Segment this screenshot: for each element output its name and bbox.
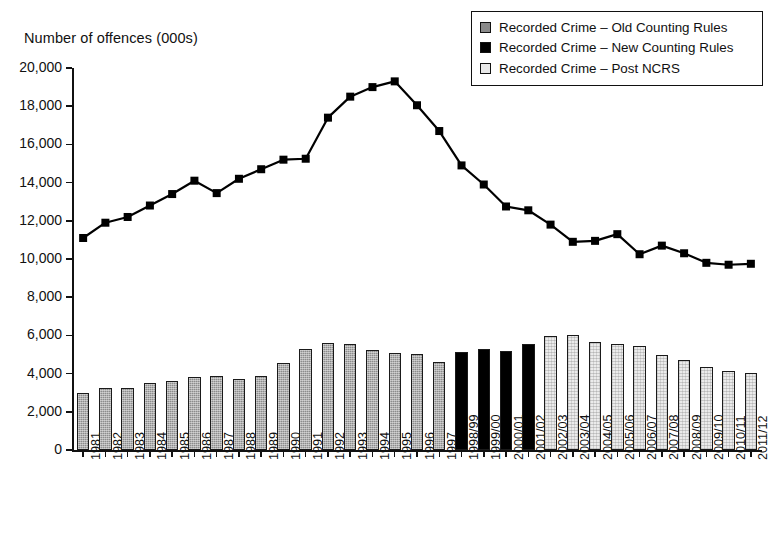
line-marker-2000-01 [502, 202, 510, 210]
x-axis-tick [127, 450, 129, 457]
old-counting-rules-swatch-icon [480, 22, 491, 33]
x-axis-tick [572, 450, 574, 457]
line-marker-1987 [213, 189, 221, 197]
x-axis-tick [750, 450, 752, 457]
line-marker-1990 [279, 156, 287, 164]
x-axis-tick [639, 450, 641, 457]
y-axis-tick-label: 8,000 [0, 288, 62, 304]
x-axis-tick [394, 450, 396, 457]
line-marker-1994 [368, 83, 376, 91]
x-axis-tick [528, 450, 530, 457]
y-axis-tick-label: 18,000 [0, 97, 62, 113]
line-marker-2010-11 [725, 261, 733, 269]
line-marker-2009-10 [702, 259, 710, 267]
x-axis-tick [617, 450, 619, 457]
line-marker-2007-08 [658, 242, 666, 250]
line-marker-2005-06 [613, 230, 621, 238]
x-axis-tick [327, 450, 329, 457]
line-marker-1996 [413, 101, 421, 109]
x-axis-tick [550, 450, 552, 457]
line-marker-2002-03 [547, 221, 555, 229]
x-axis-tick [483, 450, 485, 457]
line-marker-2004-05 [591, 237, 599, 245]
y-axis-tick-label: 20,000 [0, 59, 62, 75]
y-axis-title: Number of offences (000s) [24, 30, 198, 46]
x-axis-tick [661, 450, 663, 457]
line-marker-2008-09 [680, 249, 688, 257]
x-axis-tick [706, 450, 708, 457]
line-marker-1993 [346, 93, 354, 101]
x-axis-tick [105, 450, 107, 457]
x-axis-tick [728, 450, 730, 457]
legend-item-new-counting-rules: Recorded Crime – New Counting Rules [480, 38, 754, 59]
x-axis-tick [683, 450, 685, 457]
y-axis-tick-label: 6,000 [0, 326, 62, 342]
x-axis-tick [594, 450, 596, 457]
x-axis-tick [149, 450, 151, 457]
line-marker-2006-07 [636, 250, 644, 258]
line-marker-2003-04 [569, 238, 577, 246]
legend-item-old-counting-rules: Recorded Crime – Old Counting Rules [480, 17, 754, 38]
legend-label-new-counting-rules: Recorded Crime – New Counting Rules [499, 41, 733, 54]
new-counting-rules-swatch-icon [480, 42, 491, 53]
recorded-crime-chart: Number of offences (000s) Recorded Crime… [0, 0, 775, 540]
line-marker-1988 [235, 175, 243, 183]
line-marker-2001-02 [524, 206, 532, 214]
x-axis-tick [283, 450, 285, 457]
x-axis-tick [238, 450, 240, 457]
x-axis-tick [505, 450, 507, 457]
line-marker-1997 [435, 127, 443, 135]
line-marker-1986 [190, 177, 198, 185]
x-axis-tick [194, 450, 196, 457]
x-axis-tick [260, 450, 262, 457]
x-axis-tick [349, 450, 351, 457]
y-axis-tick-label: 16,000 [0, 135, 62, 151]
y-axis-tick-label: 10,000 [0, 250, 62, 266]
y-axis-tick-label: 12,000 [0, 212, 62, 228]
plot-area: 20,00018,00016,00014,00012,00010,0008,00… [72, 68, 762, 450]
y-axis-tick-label: 14,000 [0, 174, 62, 190]
y-axis-tick-label: 2,000 [0, 403, 62, 419]
x-axis-tick [416, 450, 418, 457]
x-axis-tick [461, 450, 463, 457]
legend-label-old-counting-rules: Recorded Crime – Old Counting Rules [499, 21, 728, 34]
y-axis-tick-label: 4,000 [0, 365, 62, 381]
line-marker-1981 [79, 234, 87, 242]
x-axis-tick [439, 450, 441, 457]
line-marker-1992 [324, 114, 332, 122]
line-marker-1982 [101, 219, 109, 227]
line-marker-1983 [124, 213, 132, 221]
y-axis-tick-label: 0 [0, 441, 62, 457]
line-marker-1999-00 [480, 181, 488, 189]
x-axis-tick [305, 450, 307, 457]
line-marker-1995 [391, 77, 399, 85]
line-marker-1984 [146, 202, 154, 210]
line-marker-1991 [302, 155, 310, 163]
line-marker-1985 [168, 190, 176, 198]
x-axis-tick [216, 450, 218, 457]
line-series [72, 68, 762, 450]
line-marker-1989 [257, 165, 265, 173]
x-axis-tick [372, 450, 374, 457]
x-axis-tick [82, 450, 84, 457]
x-axis-tick [171, 450, 173, 457]
line-marker-2011-12 [747, 260, 755, 268]
line-marker-1998-99 [458, 161, 466, 169]
